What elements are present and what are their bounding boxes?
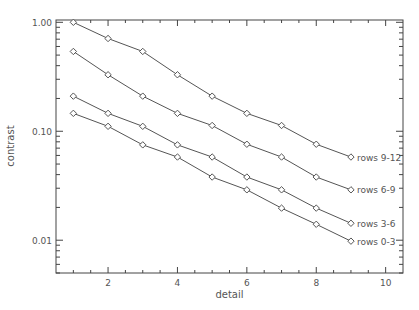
diamond-marker-icon bbox=[244, 174, 250, 180]
diamond-marker-icon bbox=[278, 122, 284, 128]
y-axis-label: contrast bbox=[5, 125, 16, 166]
series-label: rows 9-12 bbox=[357, 153, 401, 163]
diamond-marker-icon bbox=[278, 154, 284, 160]
diamond-marker-icon bbox=[313, 205, 319, 211]
y-tick-label: 0.10 bbox=[32, 127, 52, 137]
x-tick-label: 4 bbox=[175, 278, 181, 288]
diamond-marker-icon bbox=[174, 142, 180, 148]
diamond-marker-icon bbox=[105, 72, 111, 78]
diamond-marker-icon bbox=[244, 187, 250, 193]
series-label: rows 6-9 bbox=[357, 185, 396, 195]
diamond-marker-icon bbox=[140, 123, 146, 129]
diamond-marker-icon bbox=[105, 123, 111, 129]
x-tick-label: 6 bbox=[244, 278, 250, 288]
diamond-marker-icon bbox=[209, 174, 215, 180]
series-rows-9-12: rows 9-12 bbox=[70, 19, 401, 162]
diamond-marker-icon bbox=[174, 154, 180, 160]
x-tick-label: 8 bbox=[313, 278, 319, 288]
diamond-marker-icon bbox=[209, 122, 215, 128]
diamond-marker-icon bbox=[140, 93, 146, 99]
diamond-marker-icon bbox=[313, 141, 319, 147]
diamond-marker-icon bbox=[244, 110, 250, 116]
diamond-marker-icon bbox=[348, 220, 354, 226]
contrast-vs-detail-chart: 246810 1.000.100.01 rows 9-12rows 6-9row… bbox=[0, 0, 419, 310]
diamond-marker-icon bbox=[105, 110, 111, 116]
y-tick-label: 1.00 bbox=[32, 18, 52, 28]
x-axis-label: detail bbox=[215, 289, 243, 300]
series-rows-0-3: rows 0-3 bbox=[70, 110, 395, 247]
plot-area: 246810 1.000.100.01 rows 9-12rows 6-9row… bbox=[0, 0, 419, 310]
diamond-marker-icon bbox=[348, 238, 354, 244]
diamond-marker-icon bbox=[348, 154, 354, 160]
y-tick-label: 0.01 bbox=[32, 236, 52, 246]
diamond-marker-icon bbox=[244, 141, 250, 147]
y-axis: 1.000.100.01 bbox=[32, 18, 403, 273]
diamond-marker-icon bbox=[209, 154, 215, 160]
diamond-marker-icon bbox=[348, 187, 354, 193]
series-group: rows 9-12rows 6-9rows 3-6rows 0-3 bbox=[70, 19, 401, 247]
series-rows-6-9: rows 6-9 bbox=[70, 48, 396, 195]
plot-frame bbox=[56, 20, 403, 273]
diamond-marker-icon bbox=[174, 72, 180, 78]
series-line bbox=[73, 51, 351, 189]
series-label: rows 0-3 bbox=[357, 237, 396, 247]
series-label: rows 3-6 bbox=[357, 219, 396, 229]
diamond-marker-icon bbox=[70, 110, 76, 116]
diamond-marker-icon bbox=[209, 93, 215, 99]
diamond-marker-icon bbox=[174, 110, 180, 116]
series-line bbox=[73, 22, 351, 157]
diamond-marker-icon bbox=[313, 174, 319, 180]
x-tick-label: 10 bbox=[380, 278, 392, 288]
diamond-marker-icon bbox=[105, 35, 111, 41]
diamond-marker-icon bbox=[70, 48, 76, 54]
diamond-marker-icon bbox=[140, 48, 146, 54]
diamond-marker-icon bbox=[140, 142, 146, 148]
diamond-marker-icon bbox=[313, 221, 319, 227]
x-tick-label: 2 bbox=[105, 278, 111, 288]
diamond-marker-icon bbox=[278, 187, 284, 193]
diamond-marker-icon bbox=[278, 205, 284, 211]
series-rows-3-6: rows 3-6 bbox=[70, 93, 396, 229]
diamond-marker-icon bbox=[70, 93, 76, 99]
